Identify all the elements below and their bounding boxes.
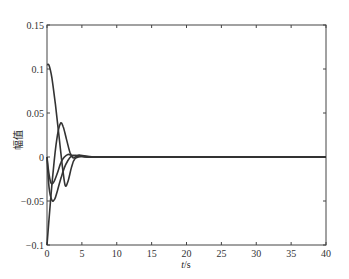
y-tick-label: 0.05: [27, 108, 45, 119]
plot-area: [47, 25, 326, 245]
y-tick-label: 0.15: [27, 20, 45, 31]
x-tick-label: 10: [112, 248, 122, 259]
x-tick-label: 5: [79, 248, 84, 259]
y-axis-label: 幅值: [12, 130, 24, 150]
y-tick-label: −0.05: [21, 196, 44, 207]
x-tick-label: 20: [182, 248, 192, 259]
y-tick-label: 0: [39, 152, 44, 163]
x-tick-label: 25: [216, 248, 226, 259]
x-tick-label: 40: [321, 248, 331, 259]
x-tick-label: 15: [147, 248, 157, 259]
x-tick-label: 35: [286, 248, 296, 259]
x-axis-label: t/s: [181, 259, 191, 270]
x-tick-label: 30: [251, 248, 261, 259]
line-chart: −0.1−0.0500.050.10.15 0510152025303540 t…: [0, 0, 349, 279]
y-tick-label: 0.1: [32, 64, 45, 75]
y-tick-label: −0.1: [26, 240, 44, 251]
x-tick-label: 0: [45, 248, 50, 259]
